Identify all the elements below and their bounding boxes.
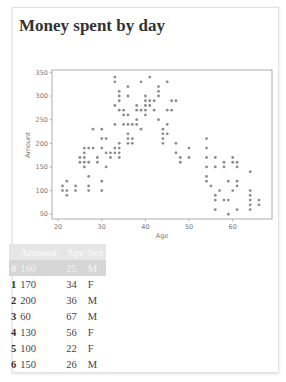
data-point: [127, 132, 130, 135]
data-point: [214, 194, 217, 197]
age-cell: 34: [64, 276, 86, 292]
data-point: [144, 109, 147, 112]
scatter-points: [61, 76, 260, 216]
data-point: [188, 147, 191, 150]
data-point: [249, 194, 252, 197]
data-point: [127, 95, 130, 98]
data-point: [166, 109, 169, 112]
data-point: [83, 156, 86, 159]
age-cell: 36: [64, 292, 86, 308]
sex-cell: M: [86, 308, 106, 324]
data-point: [118, 156, 121, 159]
sex-cell: M: [86, 260, 106, 276]
data-point: [135, 109, 138, 112]
data-point: [231, 189, 234, 192]
age-cell: 67: [64, 308, 86, 324]
sex-cell: F: [86, 276, 106, 292]
data-point: [122, 114, 125, 117]
data-point: [205, 166, 208, 169]
row-index: 0: [9, 260, 18, 276]
row-index: 3: [9, 308, 18, 324]
data-point: [127, 85, 130, 88]
data-point: [157, 90, 160, 93]
x-tick-label: 20: [54, 223, 62, 231]
data-point: [175, 142, 178, 145]
amount-cell: 100: [18, 340, 64, 356]
data-point: [157, 85, 160, 88]
data-point: [135, 118, 138, 121]
data-point: [127, 142, 130, 145]
table-row: 2 200 36 M: [9, 292, 106, 308]
data-point: [223, 161, 226, 164]
row-index: 6: [9, 356, 18, 372]
data-point: [205, 137, 208, 140]
age-cell: 56: [64, 324, 86, 340]
data-table: Amount Age Sex 0 160 25 M 1 170 34 F 2 2…: [9, 244, 106, 372]
data-point: [118, 109, 121, 112]
sex-cell: M: [86, 292, 106, 308]
data-point: [249, 189, 252, 192]
amount-cell: 60: [18, 308, 64, 324]
data-point: [157, 118, 160, 121]
data-point: [100, 128, 103, 131]
data-point: [118, 90, 121, 93]
table-row: 0 160 25 M: [9, 260, 106, 276]
data-point: [122, 109, 125, 112]
table-row: 6 150 26 M: [9, 356, 106, 372]
data-point: [83, 151, 86, 154]
x-tick-label: 50: [185, 223, 193, 231]
data-point: [87, 184, 90, 187]
data-point: [96, 161, 99, 164]
y-tick-label: 100: [36, 187, 48, 195]
data-point: [100, 189, 103, 192]
data-point: [79, 161, 82, 164]
data-point: [92, 147, 95, 150]
data-point: [83, 166, 86, 169]
data-point: [100, 180, 103, 183]
sex-cell: F: [86, 340, 106, 356]
data-point: [100, 147, 103, 150]
data-point: [140, 128, 143, 131]
x-tick-label: 30: [98, 223, 106, 231]
y-tick-label: 250: [36, 116, 48, 124]
row-index: 2: [9, 292, 18, 308]
data-point: [122, 123, 125, 126]
data-point: [166, 123, 169, 126]
data-point: [127, 137, 130, 140]
data-point: [205, 175, 208, 178]
sex-header: Sex: [86, 244, 106, 260]
data-point: [236, 180, 239, 183]
data-point: [170, 109, 173, 112]
data-point: [131, 137, 134, 140]
table-header-row: Amount Age Sex: [9, 244, 106, 260]
data-point: [179, 156, 182, 159]
data-point: [214, 166, 217, 169]
data-point: [161, 132, 164, 135]
data-point: [223, 199, 226, 202]
sex-cell: F: [86, 324, 106, 340]
data-point: [118, 142, 121, 145]
data-point: [135, 104, 138, 107]
y-tick-label: 350: [36, 69, 48, 77]
data-point: [127, 114, 130, 117]
data-point: [113, 104, 116, 107]
data-point: [205, 156, 208, 159]
data-point: [144, 95, 147, 98]
data-point: [161, 137, 164, 140]
x-axis-label: Age: [156, 232, 169, 240]
data-point: [231, 161, 234, 164]
data-point: [249, 203, 252, 206]
y-tick-label: 150: [36, 163, 48, 171]
x-axis-ticks: 2030405060: [54, 219, 237, 231]
amount-header: Amount: [18, 244, 64, 260]
age-cell: 22: [64, 340, 86, 356]
data-point: [87, 147, 90, 150]
data-point: [148, 104, 151, 107]
data-point: [118, 147, 121, 150]
data-point: [79, 156, 82, 159]
amount-cell: 150: [18, 356, 64, 372]
data-point: [83, 161, 86, 164]
data-point: [258, 199, 261, 202]
data-point: [118, 95, 121, 98]
plot-frame: [52, 70, 272, 219]
